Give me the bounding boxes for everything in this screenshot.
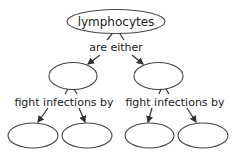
branch-node-right[interactable] <box>134 63 183 90</box>
branch-node-left[interactable] <box>49 63 97 90</box>
connector-right-b <box>166 89 169 94</box>
arrow-to-leaf-1 <box>38 108 48 122</box>
leaf-node-4[interactable] <box>178 123 228 148</box>
root-link-label: are either <box>89 41 143 54</box>
arrow-to-left-branch <box>88 55 100 64</box>
leaf-node-3[interactable] <box>125 123 174 148</box>
connector-left-a <box>65 89 68 94</box>
leaf-node-2[interactable] <box>62 123 112 148</box>
arrow-to-right-branch <box>132 55 143 64</box>
root-label: lymphocytes <box>78 15 155 29</box>
concept-map: lymphocytes are either fight infections … <box>0 0 233 155</box>
arrow-to-leaf-4 <box>187 108 196 122</box>
connector-root-a <box>107 34 112 40</box>
leaf-node-1[interactable] <box>8 123 58 148</box>
right-link-label: fight infections by <box>125 96 225 109</box>
arrow-to-leaf-2 <box>79 108 85 122</box>
arrow-to-leaf-3 <box>148 108 152 122</box>
connector-root-b <box>120 34 124 40</box>
left-link-label: fight infections by <box>14 96 114 109</box>
